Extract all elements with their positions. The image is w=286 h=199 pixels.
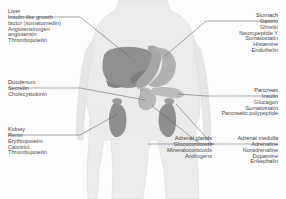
callout-stomach: Stomach Gastrin Ghrelin Neuropeptide Y S… [239,13,278,54]
callout-adrenal-glands-hormone-2: Androgens [150,154,212,160]
endocrine-organs-diagram: Liver Insulin-like growth factor (somato… [0,0,286,199]
callout-pancreas-hormone-3: Pancreatic polypeptide [221,111,278,117]
callout-liver: Liver Insulin-like growth factor (somato… [8,9,61,44]
callout-kidney-hormone-3: Thrombopoietin [8,150,47,156]
callout-pancreas: Pancreas Insulin Glucagon Somatostatin P… [221,88,278,117]
callout-duodenum-hormone-1: Cholecystokinin [8,92,47,98]
callout-duodenum: Duodenum Secretin Cholecystokinin [8,80,47,98]
callout-adrenal-medulla: Adrenal medulla Adrenaline Noradrenaline… [238,136,278,165]
callout-liver-hormone-4: Thrombopoietin [8,38,61,44]
callout-adrenal-medulla-hormone-3: Enkephalin [238,159,278,165]
callout-stomach-hormone-5: Endothelin [239,48,278,54]
callout-kidney: Kidney Renin Erythropoietin Calcitriol T… [8,127,47,156]
callout-adrenal-glands: Adrenal glands Glucocorticoids Mineraloc… [150,136,212,159]
